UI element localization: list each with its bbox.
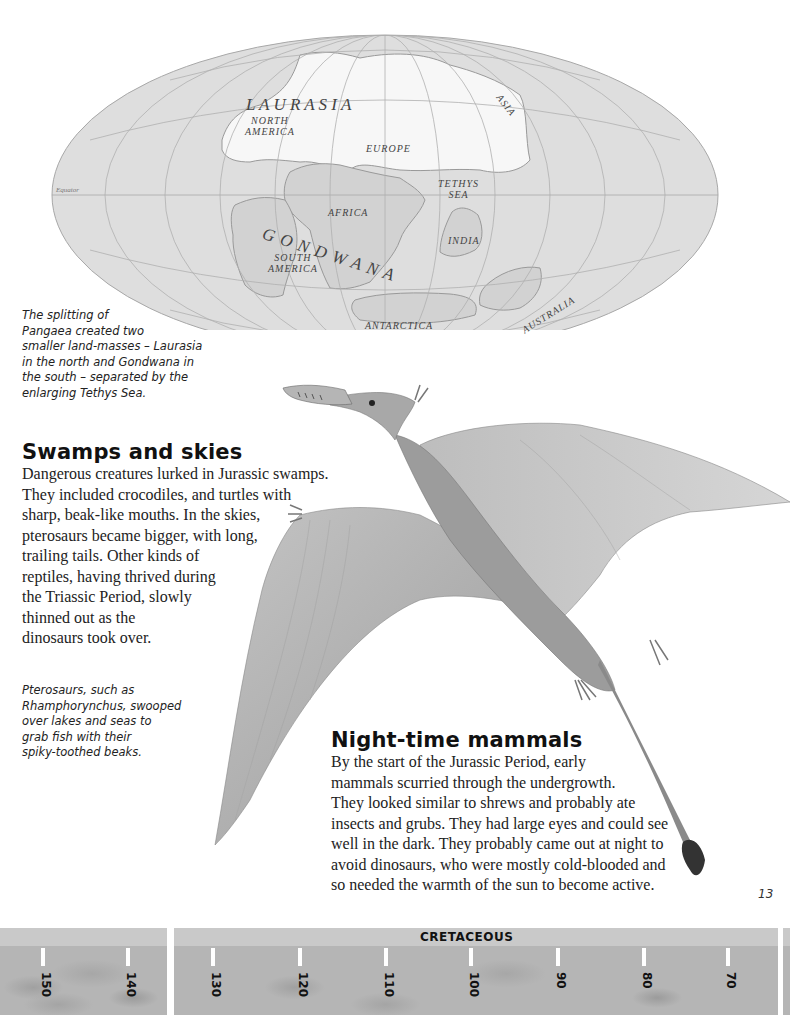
section-swamps-and-skies: Swamps and skies Dangerous creatures lur…	[22, 440, 329, 649]
pterosaur-caption: Pterosaurs, such as Rhamphorynchus, swoo…	[22, 683, 202, 761]
caption-line: Rhamphorynchus, swooped	[22, 699, 202, 715]
tick-label: 130	[209, 972, 223, 997]
tick-label: 80	[640, 972, 654, 989]
body-line: so needed the warmth of the sun to becom…	[331, 875, 668, 896]
section-heading: Night-time mammals	[331, 728, 668, 752]
tick-label: 100	[467, 972, 481, 997]
body-line: They included crocodiles, and turtles wi…	[22, 485, 329, 506]
section-night-time-mammals: Night-time mammals By the start of the J…	[331, 728, 668, 896]
body-line: sharp, beak-like mouths. In the skies,	[22, 505, 329, 526]
body-line: They looked similar to shrews and probab…	[331, 793, 668, 814]
section-body: By the start of the Jurassic Period, ear…	[331, 752, 668, 896]
body-line: avoid dinosaurs, who were mostly cold-bl…	[331, 855, 668, 876]
caption-line: over lakes and seas to	[22, 714, 202, 730]
body-line: pterosaurs became bigger, with long,	[22, 526, 329, 547]
body-line: insects and grubs. They had large eyes a…	[331, 814, 668, 835]
body-line: By the start of the Jurassic Period, ear…	[331, 752, 668, 773]
tick-label: 120	[296, 972, 310, 997]
section-heading: Swamps and skies	[22, 440, 329, 464]
tick-label: 140	[124, 972, 138, 997]
timeline-panel-jurassic	[0, 928, 167, 1015]
body-line: trailing tails. Other kinds of	[22, 546, 329, 567]
body-line: mammals scurried through the undergrowth…	[331, 773, 668, 794]
body-line: Dangerous creatures lurked in Jurassic s…	[22, 464, 329, 485]
caption-line: Pterosaurs, such as	[22, 683, 202, 699]
tick-label: 90	[554, 972, 568, 989]
tick-label: 150	[39, 972, 53, 997]
body-line: reptiles, having thrived during	[22, 567, 329, 588]
body-line: well in the dark. They probably came out…	[331, 834, 668, 855]
body-line: dinosaurs took over.	[22, 628, 329, 649]
timeline-panel-next	[783, 928, 790, 1015]
section-body: Dangerous creatures lurked in Jurassic s…	[22, 464, 329, 649]
caption-line: grab fish with their	[22, 730, 202, 746]
tick-label: 110	[382, 972, 396, 997]
era-label: CRETACEOUS	[420, 930, 513, 944]
body-line: thinned out as the	[22, 608, 329, 629]
tick-label: 70	[724, 972, 738, 989]
caption-line: spiky-toothed beaks.	[22, 745, 202, 761]
page-number: 13	[758, 887, 773, 901]
body-line: the Triassic Period, slowly	[22, 587, 329, 608]
